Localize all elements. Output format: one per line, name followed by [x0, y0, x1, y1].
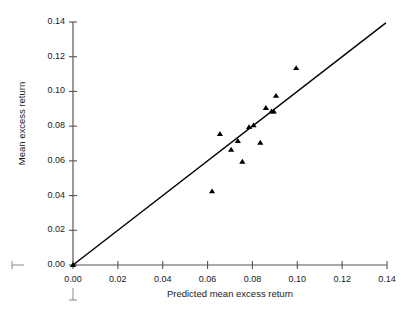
y-tick-label: 0.00 — [21, 259, 65, 269]
x-tick-label: 0.02 — [96, 274, 140, 284]
data-point-marker — [293, 65, 299, 70]
data-point-marker — [209, 188, 215, 193]
data-points-group — [70, 65, 299, 267]
y-tick-label: 0.06 — [21, 155, 65, 165]
x-tick-label: 0.06 — [186, 274, 230, 284]
y-tick-label: 0.02 — [21, 224, 65, 234]
x-tick-label: 0.10 — [275, 274, 319, 284]
data-point-marker — [228, 147, 234, 152]
x-axis-title: Predicted mean excess return — [73, 288, 387, 299]
y-tick-label: 0.14 — [21, 16, 65, 26]
identity-line — [73, 23, 386, 265]
x-tick-label: 0.14 — [365, 274, 408, 284]
data-point-marker — [217, 131, 223, 136]
y-tick-label: 0.08 — [21, 120, 65, 130]
data-point-marker — [239, 159, 245, 164]
x-tick-label: 0.04 — [141, 274, 185, 284]
data-point-marker — [263, 105, 269, 110]
reference-line — [73, 23, 386, 265]
data-point-marker — [257, 140, 263, 145]
y-tick-label: 0.12 — [21, 51, 65, 61]
x-tick-label: 0.12 — [320, 274, 364, 284]
data-point-marker — [273, 93, 279, 98]
y-tick-label: 0.04 — [21, 190, 65, 200]
x-tick-label: 0.08 — [230, 274, 274, 284]
y-tick-label: 0.10 — [21, 85, 65, 95]
x-tick-label: 0.00 — [51, 274, 95, 284]
